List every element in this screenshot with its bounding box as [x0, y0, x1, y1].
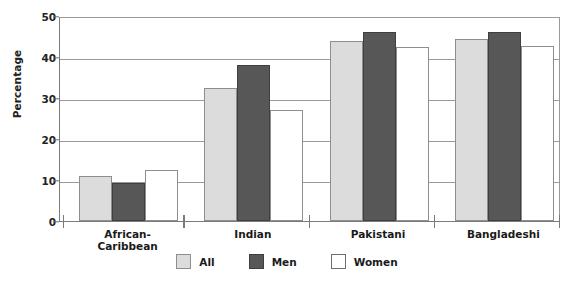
legend-label-women: Women — [354, 256, 398, 268]
y-tick-label-0: 0 — [26, 216, 56, 228]
y-tick-label-10: 10 — [26, 175, 56, 187]
legend-label-all: All — [199, 256, 214, 268]
y-tick-label-50: 50 — [26, 11, 56, 23]
bar-women-0[interactable] — [145, 170, 178, 221]
bar-all-0[interactable] — [79, 176, 112, 221]
y-axis-title: Percentage — [11, 29, 23, 139]
group-separator-1 — [183, 215, 184, 228]
legend: All Men Women — [0, 254, 574, 269]
category-label-3: Bangladeshi — [443, 228, 563, 240]
y-tick-label-40: 40 — [26, 52, 56, 64]
legend-swatch-all-icon — [176, 254, 191, 269]
legend-swatch-women-icon — [331, 254, 346, 269]
bar-women-1[interactable] — [270, 110, 303, 221]
y-tick-label-30: 30 — [26, 93, 56, 105]
bar-all-1[interactable] — [204, 88, 237, 221]
group-separator-4 — [559, 215, 560, 228]
legend-item-men[interactable]: Men — [249, 254, 297, 269]
legend-label-men: Men — [272, 256, 297, 268]
legend-swatch-men-icon — [249, 254, 264, 269]
group-separator-2 — [309, 215, 310, 228]
bar-men-0[interactable] — [112, 183, 145, 221]
category-label-1: Indian — [193, 228, 313, 240]
bar-men-1[interactable] — [237, 65, 270, 221]
bar-women-2[interactable] — [396, 47, 429, 221]
group-separator-3 — [434, 215, 435, 228]
group-separator-0 — [63, 215, 64, 228]
bar-chart: Percentage 01020304050 African- Caribbea… — [0, 0, 574, 286]
bar-all-3[interactable] — [455, 39, 488, 221]
bar-women-3[interactable] — [521, 46, 554, 221]
bar-all-2[interactable] — [330, 41, 363, 221]
plot-area — [59, 17, 560, 222]
category-label-2: Pakistani — [318, 228, 438, 240]
bar-men-3[interactable] — [488, 32, 521, 221]
bar-men-2[interactable] — [363, 32, 396, 221]
legend-item-women[interactable]: Women — [331, 254, 398, 269]
y-tick-label-20: 20 — [26, 134, 56, 146]
legend-item-all[interactable]: All — [176, 254, 214, 269]
category-label-0: African- Caribbean — [68, 228, 188, 252]
